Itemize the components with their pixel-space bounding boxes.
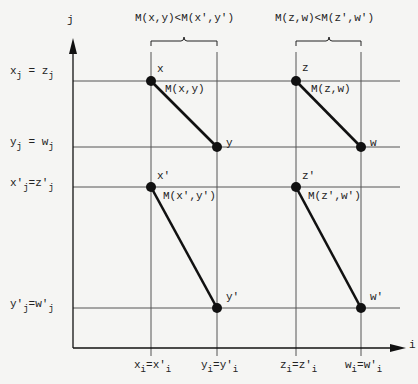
y-tick-ypj: y'j=w'j (10, 298, 54, 311)
brace-right-icon (296, 37, 361, 46)
x-tick-wi: wi=w'i (345, 359, 382, 372)
point-wp (356, 303, 366, 313)
point-label-x: x (157, 63, 164, 75)
point-w (356, 142, 366, 152)
x-axis-label: i (409, 339, 416, 351)
comparison-label-right: M(z,w)<M(z',w') (275, 12, 374, 24)
comparison-label-left: M(x,y)<M(x',y') (135, 12, 234, 24)
segment-zpwp (296, 187, 361, 308)
point-label-yp: y' (226, 291, 239, 303)
point-label-y: y (226, 137, 233, 149)
segment-label-xpyp: M(x',y') (163, 190, 216, 202)
point-label-z: z (302, 62, 309, 74)
y-tick-xpj: x'j=z'j (10, 177, 54, 190)
point-label-xp: x' (157, 170, 170, 182)
brace-left-icon (151, 37, 217, 46)
point-x (146, 76, 156, 86)
x-tick-zi: zi=z'i (280, 359, 317, 372)
grid-lines (73, 52, 400, 356)
x-tick-yi: yi=y'i (201, 359, 238, 372)
segment-label-xy: M(x,y) (165, 83, 205, 95)
y-axis-label: j (67, 14, 74, 26)
point-yp (212, 303, 222, 313)
x-tick-xi: xi=x'i (134, 359, 171, 372)
point-label-wp: w' (370, 291, 383, 303)
point-label-w: w (370, 137, 377, 149)
segment-label-zw: M(z,w) (311, 83, 351, 95)
x-axis-arrow-icon (390, 344, 406, 352)
point-z (291, 76, 301, 86)
diagram-canvas: j i M(x,y)<M(x',y') M(z,w)<M(z',w') xj =… (0, 0, 418, 384)
braces (151, 37, 361, 46)
y-tick-xj: xj = zj (10, 65, 54, 78)
y-axis-arrow-icon (69, 38, 77, 54)
segment-xpyp (151, 187, 217, 308)
point-zp (291, 182, 301, 192)
segment-label-zpwp: M(z',w') (308, 190, 361, 202)
y-tick-yj: yj = wj (10, 136, 54, 149)
point-y (212, 142, 222, 152)
point-xp (146, 182, 156, 192)
point-label-zp: z' (302, 170, 315, 182)
